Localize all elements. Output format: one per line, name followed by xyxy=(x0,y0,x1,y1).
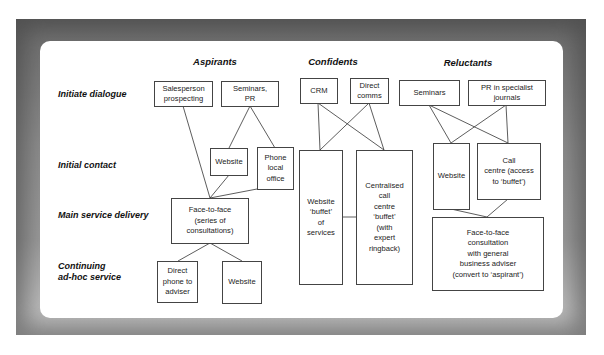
box-phone-local-office: Phone local office xyxy=(257,147,294,190)
row-label-main-service-delivery: Main service delivery xyxy=(58,210,149,221)
box-website-aspirants: Website xyxy=(210,148,248,176)
column-header-confidents: Confidents xyxy=(298,56,368,67)
box-direct-comms: Direct comms xyxy=(350,78,389,104)
box-website-buffet: Website ‘buffet’ of services xyxy=(299,150,343,285)
column-header-reluctants: Reluctants xyxy=(433,57,503,68)
box-seminars-reluctants: Seminars xyxy=(399,80,460,106)
box-face-to-face-consultation: Face-to-face consultation with general b… xyxy=(432,217,544,291)
box-pr-specialist-journals: PR in specialist journals xyxy=(468,80,546,106)
box-seminars-pr: Seminars, PR xyxy=(221,81,279,107)
box-website-continuing: Website xyxy=(222,261,262,304)
box-crm: CRM xyxy=(300,78,338,104)
row-label-continuing: Continuing xyxy=(58,261,105,272)
row-label-initial-contact: Initial contact xyxy=(58,160,116,171)
box-salesperson-prospecting: Salesperson prospecting xyxy=(154,81,213,107)
box-website-reluctants: Website xyxy=(433,143,470,210)
box-direct-phone-adviser: Direct phone to adviser xyxy=(157,261,198,303)
box-centralised-call-centre: Centralised call centre ‘buffet’ (with e… xyxy=(356,150,413,285)
row-label-adhoc-service: ad-hoc service xyxy=(58,272,121,283)
row-label-initiate-dialogue: Initiate dialogue xyxy=(58,89,127,100)
box-face-to-face-series: Face-to-face (series of consultations) xyxy=(171,198,249,244)
column-header-aspirants: Aspirants xyxy=(180,56,250,67)
box-call-centre-access: Call centre (access to ‘buffet’) xyxy=(477,143,541,200)
